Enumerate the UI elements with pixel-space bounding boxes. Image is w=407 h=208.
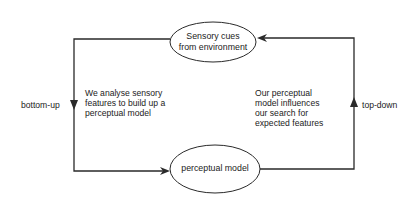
top-down-description-line-3: our search for: [255, 108, 323, 118]
top-down-label: top-down: [362, 100, 397, 110]
top-down-arrow-icon: [350, 97, 358, 107]
top-down-description-line-4: expected features: [255, 118, 323, 128]
bottom-up-description-line-1: We analyse sensory: [85, 88, 165, 98]
sensory-cues-node: Sensory cues from environment: [170, 31, 256, 52]
bottom-up-description-line-2: features to build up a: [85, 98, 165, 108]
sensory-cues-line-2: from environment: [170, 42, 256, 53]
top-down-description: Our perceptual model influences our sear…: [255, 88, 323, 128]
bottom-up-arrow-icon: [70, 100, 78, 110]
bottom-up-description-line-3: perceptual model: [85, 108, 165, 118]
perceptual-model-node: perceptual model: [170, 163, 260, 174]
top-down-description-line-1: Our perceptual: [255, 88, 323, 98]
perceptual-model-line-1: perceptual model: [170, 163, 260, 174]
sensory-cues-line-1: Sensory cues: [170, 31, 256, 42]
bottom-up-label: bottom-up: [21, 100, 60, 110]
bottom-up-description: We analyse sensory features to build up …: [85, 88, 165, 118]
top-down-description-line-2: model influences: [255, 98, 323, 108]
